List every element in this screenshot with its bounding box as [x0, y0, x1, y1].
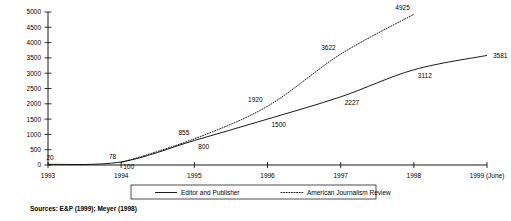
- data-label-american-journalism-review-1997: 3622: [321, 44, 336, 51]
- chart-figure: 0500100015002000250030003500400045005000…: [0, 0, 511, 221]
- data-label-editor-and-publisher-1993: 20: [46, 154, 54, 161]
- chart-background: [0, 0, 511, 221]
- x-tick-label: 1999 (June): [470, 172, 505, 180]
- x-tick-label: 1998: [407, 172, 422, 179]
- x-tick-label: 1993: [41, 172, 56, 179]
- source-note: Sources: E&P (1999); Meyer (1998): [30, 205, 137, 212]
- data-label-editor-and-publisher-1998: 3112: [418, 72, 432, 79]
- x-tick-label: 1996: [260, 172, 275, 179]
- data-label-american-journalism-review-1995: 855: [178, 129, 189, 136]
- y-tick-label: 3000: [27, 70, 42, 77]
- y-tick-label: 5000: [27, 8, 42, 15]
- legend-label-editor-and-publisher: Editor and Publisher: [181, 189, 240, 196]
- line-chart-canvas: 0500100015002000250030003500400045005000…: [0, 0, 511, 221]
- data-label-editor-and-publisher-1994: 100: [123, 163, 134, 170]
- y-tick-label: 4500: [27, 24, 42, 31]
- data-label-editor-and-publisher-1996: 1500: [272, 121, 287, 128]
- data-label-american-journalism-review-1998: 4925: [395, 4, 410, 11]
- legend-label-american-journalism-review: American Journalism Review: [307, 189, 391, 196]
- x-tick-label: 1995: [187, 172, 202, 179]
- x-tick-label: 1997: [333, 172, 348, 179]
- y-tick-label: 1000: [27, 131, 42, 138]
- y-tick-label: 4000: [27, 39, 42, 46]
- y-tick-label: 2500: [27, 85, 42, 92]
- y-tick-label: 2000: [27, 100, 42, 107]
- y-tick-label: 500: [30, 146, 41, 153]
- data-label-editor-and-publisher-1997: 2227: [345, 99, 360, 106]
- y-tick-label: 1500: [27, 116, 42, 123]
- data-label-american-journalism-review-1994: 78: [109, 153, 117, 160]
- data-label-editor-and-publisher-1999: 3581: [493, 52, 508, 59]
- data-label-american-journalism-review-1996: 1920: [248, 96, 263, 103]
- y-tick-label: 0: [37, 161, 41, 168]
- y-tick-label: 3500: [27, 54, 42, 61]
- data-label-editor-and-publisher-1995: 800: [198, 143, 209, 150]
- x-tick-label: 1994: [114, 172, 129, 179]
